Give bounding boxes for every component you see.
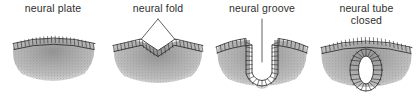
panel-neural-tube-closed: neural tube closed	[314, 0, 419, 105]
leader-line-neural-fold	[141, 19, 175, 40]
panel-neural-fold: neural fold	[106, 0, 210, 105]
panel-neural-groove: neural groove	[210, 0, 314, 105]
mesenchyme-stipple	[0, 30, 106, 90]
panel-artwork-neural-plate	[0, 0, 106, 105]
mesenchyme-stipple	[106, 32, 210, 92]
panel-artwork-neural-groove	[210, 0, 314, 105]
neural-tube-ring	[350, 49, 382, 91]
neurulation-figure: neural plate	[0, 0, 419, 105]
panel-neural-plate: neural plate	[0, 0, 106, 105]
panel-artwork-neural-tube-closed	[314, 0, 419, 105]
panel-artwork-neural-fold	[106, 0, 210, 105]
